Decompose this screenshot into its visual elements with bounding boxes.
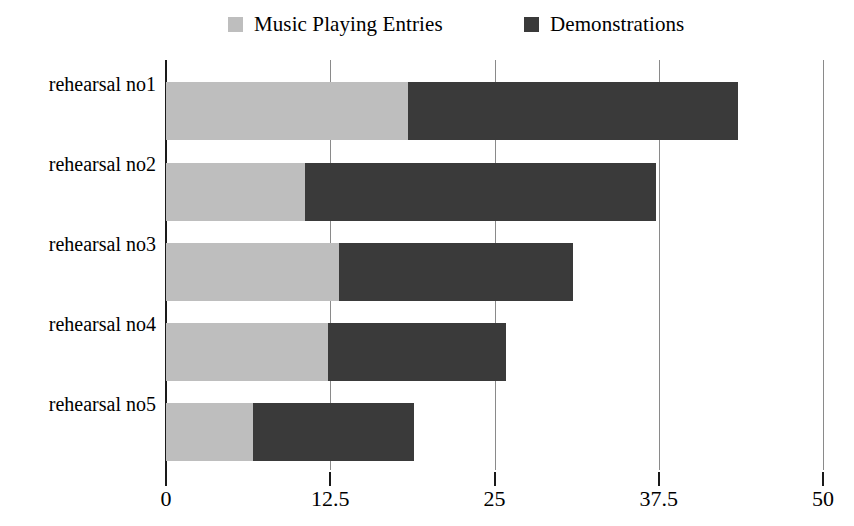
legend-swatch-icon-demonstrations — [524, 17, 539, 32]
x-axis-tick-mark — [822, 472, 824, 486]
bar-segment — [166, 403, 253, 461]
y-axis-label-rehearsal-no2: rehearsal no2 — [0, 153, 156, 175]
x-axis-tick-label-37.5: 37.5 — [640, 486, 679, 512]
bar-segment — [253, 403, 415, 461]
x-axis-tick-label-25: 25 — [484, 486, 506, 512]
legend-swatch-icon-music-playing-entries — [228, 17, 243, 32]
y-axis-label-rehearsal-no1: rehearsal no1 — [0, 73, 156, 95]
bar-segment — [328, 323, 507, 381]
x-axis-tick-mark — [329, 472, 331, 486]
legend-label-demonstrations: Demonstrations — [550, 12, 684, 36]
legend-label-music-playing-entries: Music Playing Entries — [254, 12, 443, 36]
gridline-50 — [823, 60, 824, 470]
bar-row — [166, 82, 823, 140]
x-axis-tick-mark — [658, 472, 660, 486]
plot-area — [166, 60, 823, 470]
x-axis-tick-label-50: 50 — [812, 486, 834, 512]
y-axis-label-rehearsal-no5: rehearsal no5 — [0, 393, 156, 415]
stacked-bar-chart: Music Playing Entries Demonstrations reh… — [0, 0, 854, 526]
bar-segment — [305, 163, 656, 221]
x-axis-tick-label-0: 0 — [161, 486, 172, 512]
bar-segment — [166, 243, 339, 301]
x-axis-tick-mark — [165, 472, 167, 486]
bar-segment — [166, 323, 328, 381]
bar-row — [166, 403, 823, 461]
bar-segment — [166, 163, 305, 221]
bar-row — [166, 323, 823, 381]
x-axis-tick-label-12.5: 12.5 — [311, 486, 350, 512]
bar-segment — [166, 82, 408, 140]
bar-row — [166, 163, 823, 221]
x-axis-tick-labels: 012.52537.550 — [0, 472, 854, 516]
legend-entry-demonstrations: Demonstrations — [524, 12, 684, 36]
bar-segment — [339, 243, 573, 301]
bar-row — [166, 243, 823, 301]
y-axis-label-rehearsal-no4: rehearsal no4 — [0, 313, 156, 335]
legend-entry-music-playing-entries: Music Playing Entries — [228, 12, 443, 36]
y-axis-category-labels: rehearsal no1 rehearsal no2 rehearsal no… — [0, 60, 156, 470]
bar-segment — [408, 82, 738, 140]
y-axis-label-rehearsal-no3: rehearsal no3 — [0, 233, 156, 255]
chart-legend: Music Playing Entries Demonstrations — [0, 12, 854, 46]
x-axis-tick-mark — [494, 472, 496, 486]
